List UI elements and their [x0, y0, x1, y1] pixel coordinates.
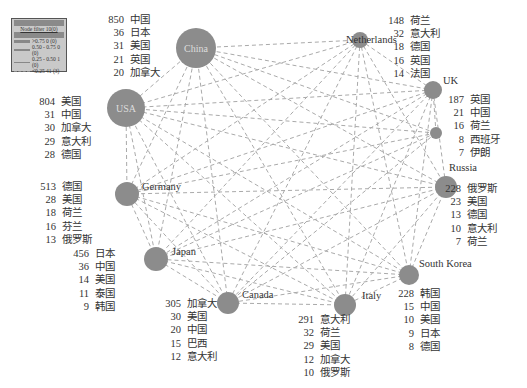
country-name: 中国 [95, 260, 115, 273]
edge-uk-italy [345, 90, 433, 305]
count-value: 8 [390, 340, 414, 353]
legend-row: 0.50 - 0.75 0 (0) [14, 44, 64, 56]
list-item: 187英国 [440, 93, 500, 106]
count-value: 850 [100, 13, 124, 26]
count-value: 228 [390, 287, 414, 300]
edge-russia-japan [156, 187, 446, 259]
count-value: 32 [380, 27, 404, 40]
country-name: 意大利 [410, 27, 440, 40]
country-name: 德国 [420, 340, 440, 353]
list-item: 32荷兰 [290, 326, 350, 339]
list-item: 850中国 [100, 13, 160, 26]
list-item: 16荷兰 [440, 119, 500, 132]
country-name: 德国 [61, 148, 81, 161]
list-item: 7伊朗 [440, 146, 500, 159]
country-name: 美国 [95, 273, 115, 286]
country-name: 意大利 [467, 222, 497, 235]
list-item: 21中国 [440, 106, 500, 119]
node-label-usa: USA [116, 103, 136, 114]
list-item: 15巴西 [157, 337, 217, 350]
country-name: 西班牙 [470, 133, 500, 146]
line-style-swatch [14, 40, 30, 43]
country-name: 中国 [61, 108, 81, 121]
count-value: 29 [290, 339, 314, 352]
node-germany[interactable] [115, 182, 139, 206]
list-item: 10美国 [390, 313, 440, 326]
country-name: 美国 [62, 193, 82, 206]
country-name: 荷兰 [62, 206, 82, 219]
count-value: 10 [437, 222, 461, 235]
count-value: 36 [65, 260, 89, 273]
list-item: 14美国 [65, 273, 115, 286]
node-label-uk: UK [443, 75, 458, 86]
list-item: 21英国 [100, 53, 160, 66]
top-partners-list-south_korea: 228韩国15中国10美国9日本8德国 [390, 287, 440, 353]
list-item: 10俄罗斯 [290, 366, 350, 379]
node-label-china: China [184, 43, 208, 54]
list-item: 30加拿大 [31, 121, 91, 134]
list-item: 13俄罗斯 [32, 233, 92, 246]
country-name: 日本 [420, 327, 440, 340]
country-name: 巴西 [187, 337, 207, 350]
country-name: 荷兰 [410, 14, 430, 27]
country-name: 中国 [187, 323, 207, 336]
country-name: 德国 [410, 40, 430, 53]
count-value: 14 [65, 273, 89, 286]
legend-row-text: <0.25 41 (3) [32, 68, 59, 74]
count-value: 9 [65, 300, 89, 313]
top-partners-list-russia: 228俄罗斯23美国13德国10意大利7荷兰 [437, 182, 497, 248]
country-name: 俄罗斯 [467, 182, 497, 195]
list-item: 7荷兰 [437, 235, 497, 248]
list-item: 16英国 [380, 54, 440, 67]
country-name: 日本 [130, 26, 150, 39]
count-value: 8 [440, 133, 464, 146]
count-value: 23 [437, 195, 461, 208]
count-value: 30 [31, 121, 55, 134]
list-item: 32意大利 [380, 27, 440, 40]
country-name: 韩国 [95, 300, 115, 313]
country-name: 加拿大 [187, 297, 217, 310]
count-value: 12 [157, 350, 181, 363]
list-item: 20中国 [157, 323, 217, 336]
count-value: 11 [65, 287, 89, 300]
top-partners-list-japan: 456日本36中国14美国11泰国9韩国 [65, 247, 115, 313]
country-name: 荷兰 [470, 119, 490, 132]
legend-row-text: 0.25 - 0.50 1 (0) [32, 56, 64, 68]
legend: Node filter 10(0) >0.75 0 (0)0.50 - 0.75… [11, 18, 67, 72]
top-partners-list-germany: 513德国28美国18荷兰16芬兰13俄罗斯 [32, 180, 92, 246]
list-item: 23美国 [437, 195, 497, 208]
country-name: 英国 [410, 54, 430, 67]
line-style-swatch [14, 49, 30, 51]
list-item: 18荷兰 [32, 206, 92, 219]
edge-italy-canada [228, 303, 345, 305]
country-name: 美国 [130, 39, 150, 52]
count-value: 31 [100, 39, 124, 52]
count-value: 13 [32, 233, 56, 246]
node-canada[interactable] [217, 292, 239, 314]
country-name: 日本 [95, 247, 115, 260]
list-item: 11泰国 [65, 287, 115, 300]
list-item: 10意大利 [437, 222, 497, 235]
country-name: 中国 [470, 106, 490, 119]
country-name: 伊朗 [470, 146, 490, 159]
count-value: 16 [32, 220, 56, 233]
list-item: 9日本 [390, 327, 440, 340]
country-name: 荷兰 [320, 326, 340, 339]
country-name: 韩国 [420, 287, 440, 300]
count-value: 7 [437, 235, 461, 248]
top-partners-list-uk: 187英国21中国16荷兰8西班牙7伊朗 [440, 93, 500, 159]
country-name: 荷兰 [467, 235, 487, 248]
node-japan[interactable] [144, 247, 168, 271]
node-south_korea[interactable] [399, 265, 419, 285]
list-item: 16芬兰 [32, 220, 92, 233]
edge-china-netherlands [196, 40, 360, 48]
country-name: 美国 [61, 95, 81, 108]
country-name: 德国 [62, 180, 82, 193]
list-item: 305加拿大 [157, 297, 217, 310]
count-value: 30 [157, 310, 181, 323]
list-item: 28美国 [32, 193, 92, 206]
count-value: 21 [440, 106, 464, 119]
list-item: 513德国 [32, 180, 92, 193]
legend-row-text: 0.50 - 0.75 0 (0) [32, 44, 64, 56]
count-value: 14 [380, 67, 404, 80]
